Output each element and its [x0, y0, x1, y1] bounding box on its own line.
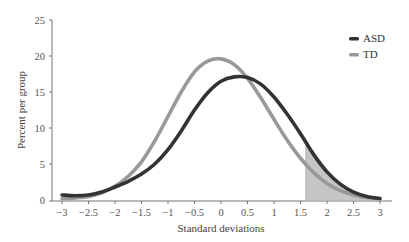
y-axis-title: Percent per group [15, 70, 27, 149]
x-tick-label: 3 [377, 207, 382, 218]
legend-label-td: TD [363, 48, 378, 60]
x-tick-label: 0 [218, 207, 223, 218]
legend-swatch-td [349, 53, 359, 57]
curves [62, 59, 380, 199]
y-tick-label: 20 [35, 51, 46, 62]
y-tick-label: 5 [40, 159, 45, 170]
x-tick-label: −2.5 [79, 207, 98, 218]
y-tick-label: 10 [35, 123, 46, 134]
legend-swatch-asd [349, 37, 359, 41]
x-tick-label: 2.5 [347, 207, 360, 218]
x-axis-title: Standard deviations [177, 222, 264, 234]
legend-item-td: TD [349, 48, 378, 60]
y-tick-label: 0 [40, 195, 45, 206]
x-tick-label: −1 [162, 207, 173, 218]
x-tick-label: 0.5 [241, 207, 254, 218]
y-tick-label: 15 [35, 87, 46, 98]
legend-label-asd: ASD [363, 32, 385, 44]
chart: −3−2.5−2−1.5−1−0.500.511.522.53051015202… [0, 0, 409, 242]
y-tick-label: 25 [35, 15, 46, 26]
x-tick-label: −0.5 [185, 207, 204, 218]
x-tick-label: 1.5 [294, 207, 307, 218]
x-tick-label: −1.5 [132, 207, 151, 218]
legend-item-asd: ASD [349, 32, 385, 44]
x-tick-label: −3 [56, 207, 67, 218]
legend: ASD TD [349, 32, 385, 60]
axes [49, 20, 392, 204]
x-tick-label: 1 [271, 207, 276, 218]
x-tick-label: 2 [324, 207, 329, 218]
x-tick-label: −2 [109, 207, 120, 218]
